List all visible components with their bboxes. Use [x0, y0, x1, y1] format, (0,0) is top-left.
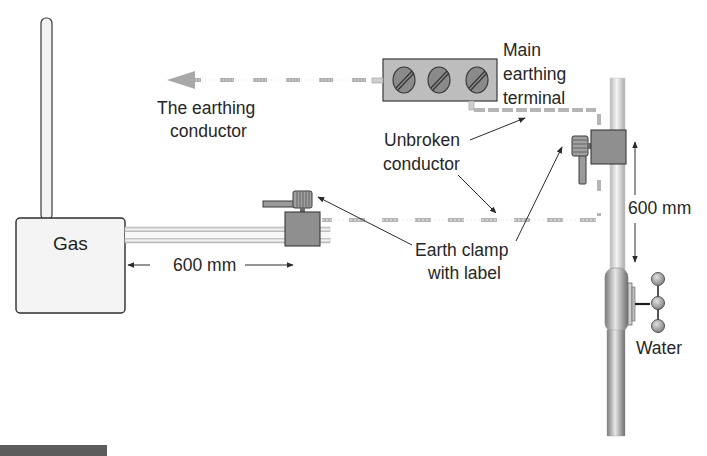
unbroken-conductor-label-1: Unbroken	[384, 130, 460, 150]
main-earthing-terminal	[372, 59, 497, 110]
water-label: Water	[636, 338, 682, 358]
terminal-screw-icon	[393, 67, 415, 93]
leader-clamp-water	[516, 147, 562, 241]
terminal-screw-icon	[428, 67, 450, 93]
arrow-left-icon	[167, 71, 195, 89]
earth-clamp-label-1: Earth clamp	[415, 240, 508, 260]
gas-label: Gas	[53, 233, 88, 254]
gas-meter: Gas	[16, 218, 125, 313]
leader-unbroken-top	[470, 118, 525, 140]
gas-distance-label: 600 mm	[173, 255, 236, 275]
water-distance-label: 600 mm	[628, 198, 691, 218]
gas-distance-dimension: 600 mm	[128, 255, 293, 275]
main-earthing-terminal-label-2: earthing	[503, 64, 566, 84]
water-stop-tap: Water	[628, 273, 682, 359]
main-earthing-terminal-label-1: Main	[503, 40, 541, 60]
earthing-conductor-label-2: conductor	[170, 121, 247, 141]
bottom-edge-bar	[0, 445, 107, 456]
main-earthing-terminal-label-3: terminal	[503, 88, 565, 108]
earthing-conductor-label-1: The earthing	[157, 98, 255, 118]
earthing-conductor	[167, 71, 372, 89]
earth-clamp-label-2: with label	[427, 263, 501, 283]
gas-flue-pipe	[41, 18, 52, 220]
leader-unbroken-bottom	[458, 175, 496, 213]
terminal-screw-icon	[466, 67, 488, 93]
water-distance-dimension: 600 mm	[628, 142, 691, 262]
unbroken-conductor-label-2: conductor	[383, 154, 460, 174]
unbroken-conductor	[322, 110, 599, 220]
earthing-diagram: Gas	[0, 0, 707, 456]
